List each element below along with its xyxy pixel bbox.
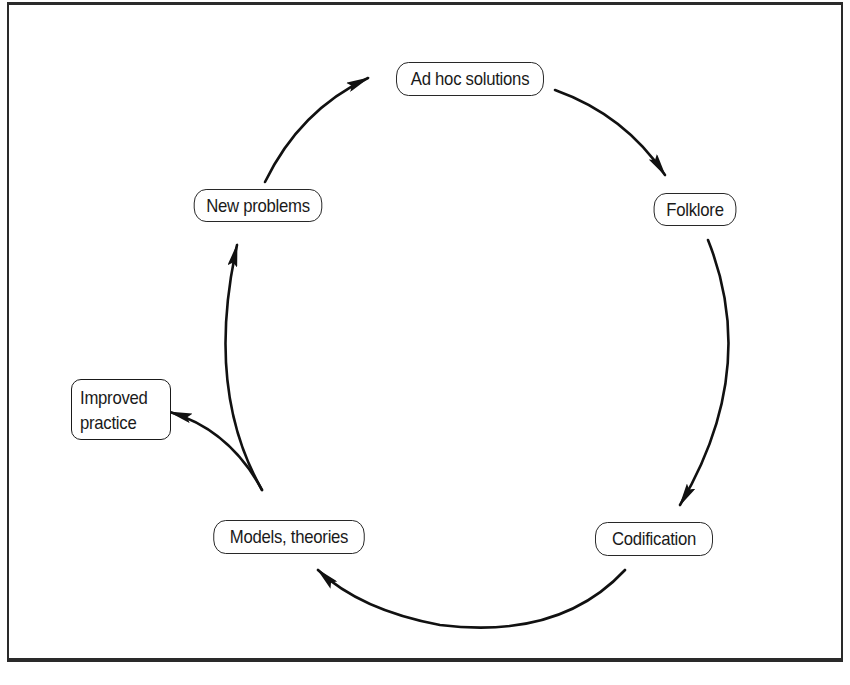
node-codification: Codification (595, 522, 713, 556)
arrow-models-to-improved (170, 412, 262, 490)
node-folklore: Folklore (654, 193, 737, 226)
node-models-theories: Models, theories (213, 520, 364, 554)
node-label: Ad hoc solutions (411, 68, 529, 90)
arrow-models-to-newproblems (225, 245, 262, 490)
cycle-arrows (0, 0, 850, 685)
node-label-line1: Improved (80, 385, 148, 410)
arrow-newproblems-to-adhoc (265, 78, 368, 182)
arrow-codification-to-models (318, 570, 625, 628)
node-label: Models, theories (230, 526, 348, 548)
node-new-problems: New problems (194, 189, 322, 222)
arrow-folklore-to-codification (680, 240, 728, 505)
node-label: Folklore (666, 199, 723, 221)
node-label-line2: practice (80, 410, 136, 435)
arrow-adhoc-to-folklore (555, 90, 665, 175)
node-ad-hoc-solutions: Ad hoc solutions (396, 62, 544, 96)
node-label: New problems (206, 195, 310, 217)
node-improved-practice: Improved practice (71, 379, 171, 440)
node-label: Codification (612, 528, 696, 550)
